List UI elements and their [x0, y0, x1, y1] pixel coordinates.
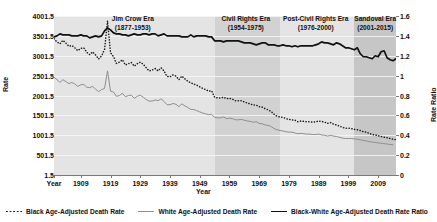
- era-label: Sandoval Era(2001-2015): [315, 14, 435, 32]
- x-tick-mark: [378, 175, 379, 178]
- secondary-y-tick-label: 1.2: [400, 52, 410, 59]
- x-axis-line: [54, 175, 397, 176]
- x-tick-label: 1949: [192, 180, 208, 187]
- y-tick-mark: [51, 96, 54, 97]
- x-tick-label: 1939: [162, 180, 178, 187]
- x-tick-label: 1959: [222, 180, 238, 187]
- plot-area: [54, 16, 396, 175]
- x-tick-label: 1999: [341, 180, 357, 187]
- series-line-white-age-adjusted-death-rate: [54, 71, 393, 145]
- y-tick-mark: [51, 16, 54, 17]
- y-tick-mark: [51, 56, 54, 57]
- series-lines: [54, 16, 396, 175]
- series-line-black-age-adjusted-death-rate: [54, 21, 396, 140]
- secondary-y-tick-mark: [396, 96, 399, 97]
- era-years: (1877-1953): [73, 23, 193, 32]
- legend-label: White Age-Adjusted Death Rate: [158, 208, 257, 215]
- legend-item[interactable]: Black-White Age-Adjusted Death Rate Rati…: [271, 208, 428, 215]
- secondary-y-tick-label: 0: [400, 172, 404, 179]
- secondary-y-tick-label: 0.2: [400, 152, 410, 159]
- secondary-y-tick-mark: [396, 135, 399, 136]
- y-axis-title: Rate: [2, 77, 9, 92]
- x-tick-label: 1929: [132, 180, 148, 187]
- y-tick-mark: [51, 115, 54, 116]
- x-tick-label: 1919: [103, 180, 119, 187]
- legend-swatch-icon: [271, 209, 287, 213]
- x-tick-label: 2009: [370, 180, 386, 187]
- legend-swatch-icon: [138, 209, 154, 213]
- x-tick-mark: [111, 175, 112, 178]
- x-tick-label: 1909: [73, 180, 89, 187]
- secondary-y-tick-mark: [396, 115, 399, 116]
- secondary-y-tick-label: 0.6: [400, 112, 410, 119]
- y-tick-mark: [51, 135, 54, 136]
- secondary-y-tick-mark: [396, 155, 399, 156]
- era-label: Jim Crow Era(1877-1953): [73, 14, 193, 32]
- secondary-y-axis-title: Rate Ratio: [430, 87, 437, 122]
- legend-item[interactable]: White Age-Adjusted Death Rate: [138, 208, 257, 215]
- x-tick-label: 1969: [251, 180, 267, 187]
- secondary-y-tick-label: 0.4: [400, 132, 410, 139]
- secondary-y-tick-label: 0.8: [400, 92, 410, 99]
- x-axis-title: Year: [196, 188, 211, 195]
- secondary-y-tick-mark: [396, 76, 399, 77]
- secondary-y-tick-mark: [396, 175, 399, 176]
- x-tick-mark: [140, 175, 141, 178]
- x-tick-label: 1989: [311, 180, 327, 187]
- x-tick-label: Year: [47, 180, 62, 187]
- x-tick-label: 1979: [281, 180, 297, 187]
- legend-swatch-icon: [6, 209, 22, 213]
- era-years: (2001-2015): [315, 23, 435, 32]
- x-tick-mark: [348, 175, 349, 178]
- x-tick-mark: [170, 175, 171, 178]
- legend-item[interactable]: Black Age-Adjusted Death Rate: [6, 208, 124, 215]
- x-tick-mark: [289, 175, 290, 178]
- secondary-y-tick-label: 1.4: [400, 32, 410, 39]
- secondary-y-tick-mark: [396, 56, 399, 57]
- y-tick-mark: [51, 155, 54, 156]
- legend-label: Black-White Age-Adjusted Death Rate Rati…: [291, 208, 428, 215]
- era-name: Jim Crow Era: [73, 14, 193, 23]
- x-tick-mark: [259, 175, 260, 178]
- x-tick-mark: [200, 175, 201, 178]
- x-tick-mark: [229, 175, 230, 178]
- chart-legend: Black Age-Adjusted Death RateWhite Age-A…: [0, 204, 434, 218]
- x-tick-mark: [319, 175, 320, 178]
- era-name: Sandoval Era: [315, 14, 435, 23]
- x-tick-mark: [81, 175, 82, 178]
- secondary-y-tick-label: 1: [400, 72, 404, 79]
- y-tick-mark: [51, 36, 54, 37]
- secondary-y-tick-mark: [396, 36, 399, 37]
- legend-label: Black Age-Adjusted Death Rate: [26, 208, 124, 215]
- y-tick-mark: [51, 76, 54, 77]
- x-tick-mark: [54, 175, 55, 178]
